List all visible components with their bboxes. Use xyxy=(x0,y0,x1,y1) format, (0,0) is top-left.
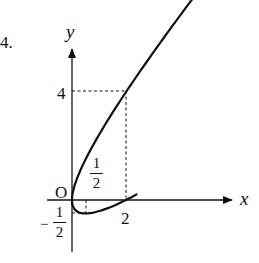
fraction-half-numerator: 1 xyxy=(93,156,101,171)
graph-canvas xyxy=(0,0,259,263)
fraction-bar xyxy=(53,222,66,223)
tick-label-x-2: 2 xyxy=(121,210,130,227)
fraction-bar xyxy=(90,173,103,174)
y-axis-label: y xyxy=(66,22,74,41)
x-axis-label: x xyxy=(240,189,248,208)
fraction-neg-half: 1 2 xyxy=(53,205,66,240)
problem-number: 4. xyxy=(0,34,13,51)
fraction-half-denominator: 2 xyxy=(93,176,101,191)
neg-half-sign: − xyxy=(40,217,48,232)
fraction-neg-half-numerator: 1 xyxy=(56,205,64,220)
fraction-neg-half-denominator: 2 xyxy=(56,225,64,240)
origin-label: O xyxy=(55,184,67,201)
fraction-half: 1 2 xyxy=(90,156,103,191)
tick-label-y-4: 4 xyxy=(57,85,66,102)
